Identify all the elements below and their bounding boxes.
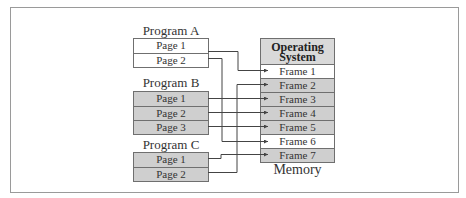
mapping-arrows — [0, 0, 466, 198]
